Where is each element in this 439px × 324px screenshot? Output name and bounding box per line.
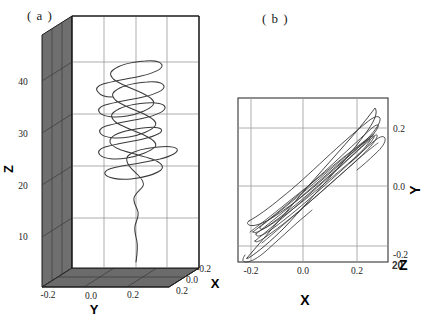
- plots-layer: 10 20 30 40 Z -0.2 0.0 0.2 Y 0.2 0.0 -0.…: [0, 0, 439, 324]
- panel-b-y-axis-title: Y: [407, 185, 423, 195]
- panel-b-x-ticks: -0.2 0.0 0.2: [243, 266, 363, 276]
- panel-b-frame: [238, 98, 388, 262]
- y-tick-neg02: -0.2: [40, 290, 55, 300]
- panel-b-plot: [238, 98, 388, 262]
- b-y-tick-02: 0.2: [393, 124, 405, 134]
- box-back-wall: [72, 16, 199, 268]
- b-x-tick-00: 0.0: [297, 266, 309, 276]
- figure-canvas: ( a ) ( b ): [0, 0, 439, 324]
- z-tick-20: 20: [18, 181, 28, 191]
- y-tick-00: 0.0: [85, 291, 97, 301]
- panel-a-3d-box: [42, 16, 199, 287]
- z-tick-30: 30: [18, 129, 28, 139]
- panel-a-z-ticks: 10 20 30 40: [18, 77, 28, 242]
- b-x-tick-02: 0.2: [351, 266, 363, 276]
- panel-b-x-axis-title: X: [300, 292, 310, 308]
- x-tick-neg02d: -0.2: [196, 264, 211, 274]
- panel-b-y-ticks: 0.2 0.0 -0.2: [393, 124, 408, 260]
- x-tick-00d: 0.0: [186, 275, 198, 285]
- z-tick-10: 10: [18, 232, 28, 242]
- box-left-wall: [42, 16, 72, 287]
- panel-a-y-axis-title: Y: [90, 302, 99, 317]
- b-y-tick-00: 0.0: [393, 182, 405, 192]
- z-tick-40: 40: [18, 77, 28, 87]
- y-tick-02: 0.2: [127, 290, 139, 300]
- x-tick-02d: 0.2: [176, 286, 188, 296]
- panel-a-y-ticks: -0.2 0.0 0.2: [40, 290, 139, 301]
- panel-a-x-axis-title: X: [211, 276, 220, 291]
- panel-a-z-axis-title: Z: [1, 165, 16, 173]
- b-x-tick-neg02: -0.2: [243, 266, 258, 276]
- overlap-artifact-z-letter: Z: [399, 257, 408, 273]
